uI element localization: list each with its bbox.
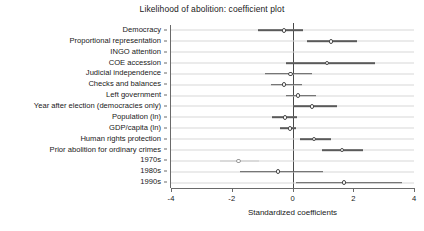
confidence-interval-bar — [258, 30, 303, 32]
category-tick — [164, 116, 167, 117]
point-estimate-marker — [282, 82, 287, 87]
x-axis-tick — [171, 188, 172, 192]
category-label: Year after election (democracies only) — [34, 101, 161, 112]
coefficient-row — [171, 68, 414, 79]
coefficient-row — [171, 155, 414, 166]
gridline — [171, 52, 414, 53]
category-label: Checks and balances — [88, 79, 161, 90]
point-estimate-marker — [288, 126, 293, 131]
confidence-interval-bar — [271, 84, 302, 86]
point-estimate-marker — [236, 159, 241, 164]
chart-title: Likelihood of abolition: coefficient plo… — [0, 4, 424, 14]
category-label: Population (ln) — [112, 112, 161, 123]
category-tick — [164, 106, 167, 107]
category-tick — [164, 40, 167, 41]
coefficient-row — [171, 112, 414, 123]
coefficient-row — [171, 47, 414, 58]
coefficient-row — [171, 58, 414, 69]
x-axis-title: Standardized coefficients — [171, 208, 414, 217]
point-estimate-marker — [288, 72, 293, 77]
gridline — [171, 160, 414, 161]
confidence-interval-bar — [240, 171, 323, 173]
coefficient-row — [171, 79, 414, 90]
x-axis-tick — [293, 188, 294, 192]
coefficient-plot-figure: Likelihood of abolition: coefficient plo… — [0, 0, 424, 231]
category-label: Prior abolition for ordinary crimes — [50, 145, 161, 156]
x-axis-tick-label: -4 — [168, 194, 175, 203]
confidence-interval-bar — [286, 62, 375, 64]
category-label: 1970s — [140, 155, 161, 166]
category-label: 1980s — [140, 166, 161, 177]
coefficient-row — [171, 90, 414, 101]
confidence-interval-bar — [293, 106, 337, 108]
coefficient-row — [171, 145, 414, 156]
category-label: COE accession — [109, 58, 161, 69]
confidence-interval-bar — [296, 182, 402, 184]
category-label: INGO attention — [110, 47, 161, 58]
x-axis-tick-label: 2 — [351, 194, 355, 203]
category-tick — [164, 160, 167, 161]
coefficient-row — [171, 123, 414, 134]
x-axis-tick-label: 4 — [412, 194, 416, 203]
coefficient-row — [171, 36, 414, 47]
category-label: GDP/capita (ln) — [109, 123, 161, 134]
point-estimate-marker — [310, 104, 315, 109]
category-tick — [164, 182, 167, 183]
coefficient-row — [171, 25, 414, 36]
gridline — [171, 149, 414, 150]
gridline — [171, 41, 414, 42]
category-tick — [164, 62, 167, 63]
point-estimate-marker — [342, 180, 347, 185]
category-tick — [164, 171, 167, 172]
category-label-axis: DemocracyProportional representationINGO… — [0, 25, 167, 188]
point-estimate-marker — [276, 169, 281, 174]
category-tick — [164, 73, 167, 74]
point-estimate-marker — [282, 28, 287, 33]
category-label: Left government — [106, 90, 161, 101]
point-estimate-marker — [283, 115, 288, 120]
coefficient-row — [171, 101, 414, 112]
category-label: Democracy — [123, 25, 161, 36]
category-tick — [164, 127, 167, 128]
x-axis-tick-label: 0 — [290, 194, 294, 203]
category-label: 1990s — [140, 177, 161, 188]
category-label: Judicial independence — [86, 68, 161, 79]
category-label: Proportional representation — [69, 36, 161, 47]
category-tick — [164, 95, 167, 96]
coefficient-row — [171, 166, 414, 177]
coefficient-row — [171, 177, 414, 188]
category-label: Human rights protection — [80, 134, 161, 145]
confidence-interval-bar — [286, 95, 316, 97]
point-estimate-marker — [296, 93, 301, 98]
x-axis-tick — [232, 188, 233, 192]
coefficient-row — [171, 134, 414, 145]
plot-area — [171, 25, 414, 188]
gridline — [171, 139, 414, 140]
point-estimate-marker — [325, 61, 330, 66]
x-axis-tick-label: -2 — [228, 194, 235, 203]
point-estimate-marker — [312, 137, 317, 142]
category-tick — [164, 138, 167, 139]
category-tick — [164, 51, 167, 52]
category-tick — [164, 149, 167, 150]
x-axis-tick — [353, 188, 354, 192]
x-axis-line: -4-2024 — [171, 188, 414, 189]
point-estimate-marker — [329, 39, 334, 44]
category-tick — [164, 84, 167, 85]
category-tick — [164, 29, 167, 30]
point-estimate-marker — [340, 148, 345, 153]
x-axis-tick — [414, 188, 415, 192]
